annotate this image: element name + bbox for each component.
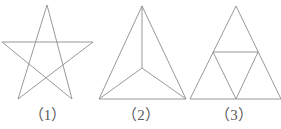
triangle-3-midsegment-left: [213, 52, 236, 99]
triangle-2-spoke-bottom-right: [142, 68, 186, 99]
captions-row: （1） （2） （3）: [0, 101, 281, 129]
caption-3: （3）: [187, 101, 281, 129]
figure-3-triangle-midpoint-split: [190, 6, 281, 99]
caption-2: （2）: [95, 101, 187, 129]
triangle-3-outline: [190, 6, 281, 99]
triangle-2-spoke-bottom-left: [99, 68, 142, 99]
pentagram-outline: [2, 5, 93, 99]
triangle-2-outline: [99, 6, 186, 99]
geometry-figure-board: （1） （2） （3）: [0, 0, 281, 129]
figure-2-triangle-center-split: [99, 6, 186, 99]
triangle-3-midsegment-right: [236, 52, 258, 99]
figure-1-pentagram: [2, 5, 93, 99]
caption-1: （1）: [0, 101, 95, 129]
